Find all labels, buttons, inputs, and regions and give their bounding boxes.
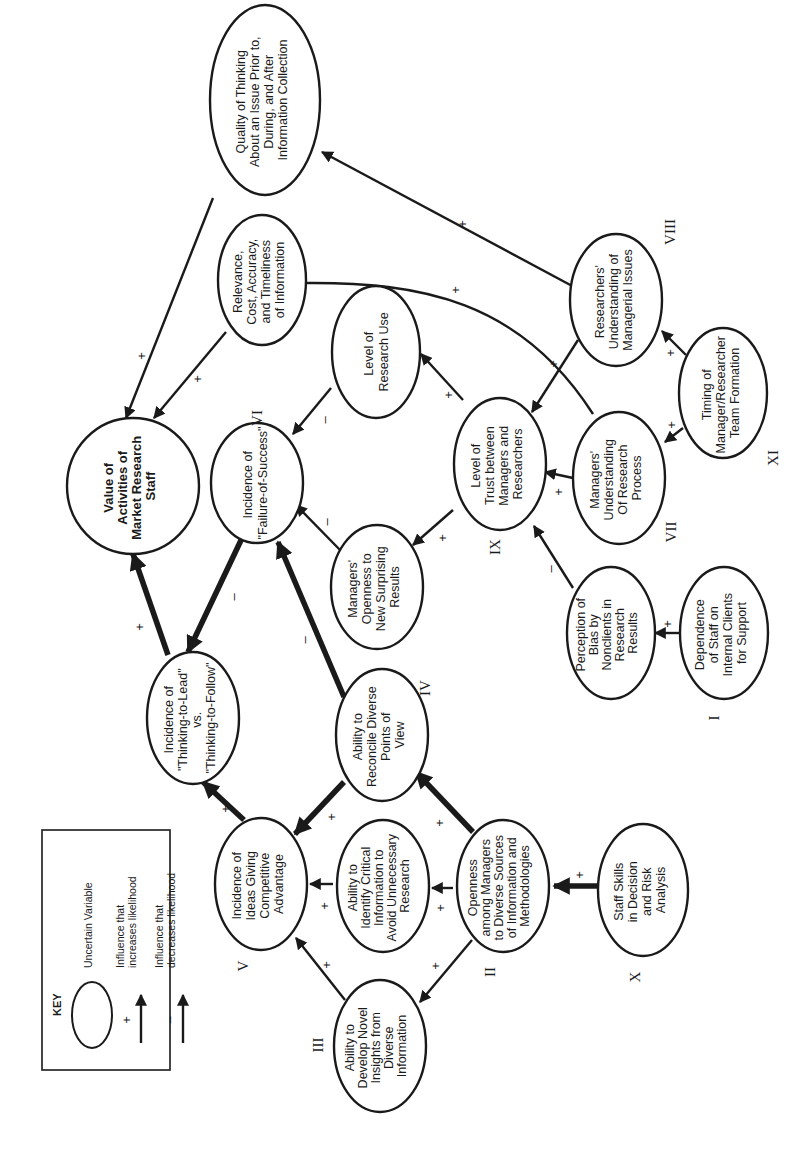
sign-researchers-trust: + [546,360,561,368]
sign-trust-openness: + [435,534,450,542]
sign-quality-value: + [134,352,149,360]
sign-research-use-failure: – [317,416,332,424]
edge-openness-sources-to-novel-insights [420,940,472,1002]
svg-text:Dependence of Staff on: Dependence of Staff on Internal Clients … [693,590,749,677]
node-researchers-understanding: Researchers' Understanding of Managerial… [570,219,678,366]
node-trust: Level of Trust between Managers and Rese… [454,398,546,555]
node-failure-of-success: Incidence of "Failure-of-Success" VI [211,410,303,543]
node-openness-sources: Openness among Managers to Diverse Sourc… [457,820,549,977]
sign-openness-failure: – [319,518,334,526]
node-relevance: Relevance, Cost, Accuracy, and Timelines… [218,215,306,345]
node-managers-openness: Managers' Openness to New Surprising Res… [331,525,423,649]
node-staff-skills: Staff Skills in Decision and Risk Analys… [598,824,688,982]
sign-failure-thinking: – [226,593,241,601]
sign-novel-ideas: + [319,961,334,969]
node-quality: Quality of Thinking About an Issue Prior… [210,5,320,195]
key-minus-sign: – [162,1016,177,1024]
key-title: KEY [51,993,63,1016]
numeral-ii: II [482,967,498,977]
node-perception-bias: Perception of Bias by Nonclients in Rese… [567,567,655,699]
numeral-vi: VI [249,410,265,426]
svg-text:Incidence of Ideas Givin: Incidence of Ideas Giving Competitive Ad… [230,848,286,921]
node-value: Value of Activities of Market Research S… [67,418,199,554]
edge-timing-to-managers-understanding [665,428,683,442]
edge-perception-bias-to-trust [534,526,573,588]
node-reconcile: Ability to Reconcile Diverse Points of V… [336,669,433,801]
sign-openness-novel: + [428,962,443,970]
edge-research-use-to-failure [293,388,331,434]
sign-bias-trust: – [543,565,558,573]
key-ellipse-icon [72,982,112,1048]
numeral-iii: III [310,1038,326,1053]
sign-openness-identify: + [433,904,448,912]
numeral-ix: IX [487,539,503,555]
node-timing: Timing of Manager/Researcher Team Format… [679,328,781,466]
numeral-iv: IV [417,680,433,696]
sign-timing-researchers: + [663,349,678,357]
key-plus-sign: + [119,1016,134,1024]
sign-thinking-value: + [132,623,147,631]
numeral-v: V [235,960,251,971]
node-ideas-competitive: Incidence of Ideas Giving Competitive Ad… [215,818,307,971]
numeral-xi: XI [765,450,781,466]
sign-researchers-quality: + [455,220,470,228]
svg-text:Staff Skills in Decision: Staff Skills in Decision and Risk Analys… [612,858,668,923]
sign-timing-managers: + [664,421,679,429]
edge-managers-openness-to-failure [296,505,342,552]
sign-relevance-value: + [190,375,205,383]
sign-openness-reconcile: + [432,819,447,827]
node-research-use: Level of Research Use [332,286,420,418]
numeral-viii: VIII [662,219,678,245]
svg-text:Researchers' Understandi: Researchers' Understanding of Managerial… [593,249,635,350]
sign-trust-research-use: + [441,391,456,399]
numeral-i: I [706,716,722,721]
node-identify-critical: Ability to Identify Critical Information… [337,820,429,952]
node-managers-understanding: Managers' Understanding Of Research Proc… [573,412,679,544]
node-novel-insights: Ability to Develop Novel Insights from D… [310,980,426,1112]
svg-text:Quality of Thinking Abou: Quality of Thinking About an Issue Prior… [234,33,290,167]
sign-dependence-bias: + [660,620,675,628]
numeral-vii: VII [663,522,679,543]
influence-diagram: + + + – – – – + + + + + + – + + + + + + … [0,0,804,1157]
edge-reconcile-to-ideas [295,782,344,834]
edge-quality-to-value [126,198,213,418]
node-thinking-to-lead: Incidence of "Thinking-to-Lead" vs. "Thi… [147,652,239,784]
node-dependence: Dependence of Staff on Internal Clients … [680,567,768,721]
sign-managers-trust: + [551,488,566,496]
edge-relevance-to-value [154,332,226,418]
svg-text:Relevance, Cost, Accurac: Relevance, Cost, Accuracy, and Timelines… [231,235,287,324]
sign-ideas-thinking: + [218,805,233,813]
sign-skills-openness: + [572,871,587,879]
sign-managers-relevance: + [448,286,463,294]
sign-identify-ideas: + [317,902,332,910]
sign-reconcile-ideas: + [324,813,339,821]
numeral-x: X [627,971,643,982]
edge-thinking-lead-to-value [133,554,168,655]
edge-managers-understanding-to-trust [545,472,573,478]
key-label-uncertain: Uncertain Variable [82,882,94,968]
key-legend: KEY Uncertain Variable + Influence that … [42,830,183,1070]
edge-ideas-to-thinking-lead [203,782,244,820]
sign-reconcile-failure: – [297,636,312,644]
